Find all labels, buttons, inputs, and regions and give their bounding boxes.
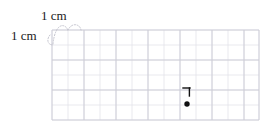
grid-minor-lines (52, 30, 259, 120)
height-measure-label: 1 cm (11, 29, 37, 42)
width-leader-arc-right (68, 25, 81, 30)
marked-point (184, 101, 189, 106)
figure-canvas: 1 cm 1 cm (0, 0, 270, 134)
width-measure-label: 1 cm (41, 9, 67, 22)
width-leader-arc (53, 26, 68, 44)
right-angle-mark (183, 88, 190, 96)
